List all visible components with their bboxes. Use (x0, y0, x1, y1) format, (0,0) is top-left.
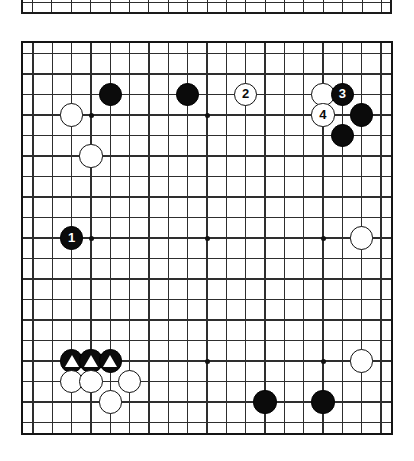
star-point (205, 113, 210, 118)
grid-line-horizontal (23, 2, 390, 3)
grid-line-vertical (264, 43, 265, 433)
star-point (89, 236, 94, 241)
star-point (321, 359, 326, 364)
grid-line-horizontal (23, 319, 391, 320)
grid-line-horizontal (23, 340, 391, 341)
star-point (205, 236, 210, 241)
grid-line-horizontal (23, 422, 391, 423)
move-number-label: 1 (68, 231, 75, 244)
white-stone[interactable] (350, 226, 373, 249)
star-point (321, 236, 326, 241)
black-stone[interactable] (311, 390, 334, 413)
white-stone[interactable] (350, 349, 373, 372)
grid-line-vertical (284, 43, 285, 433)
black-stone[interactable]: 1 (60, 226, 83, 249)
move-number-label: 4 (319, 108, 326, 121)
black-stone[interactable] (331, 124, 354, 147)
grid-line-vertical (226, 43, 227, 433)
black-stone[interactable]: 3 (331, 83, 354, 106)
black-stone[interactable] (350, 103, 373, 126)
white-stone[interactable] (79, 144, 102, 167)
white-stone[interactable] (99, 390, 122, 413)
grid-line-horizontal (23, 258, 391, 259)
white-stone[interactable]: 4 (311, 103, 334, 126)
star-point (205, 359, 210, 364)
grid-line-vertical (380, 43, 381, 433)
white-stone[interactable] (60, 103, 83, 126)
move-number-label: 3 (339, 87, 346, 100)
black-stone[interactable] (99, 349, 122, 372)
black-stone[interactable] (253, 390, 276, 413)
previous-diagram-bottom-edge (21, 0, 392, 14)
grid-line-horizontal (23, 299, 391, 300)
star-point (89, 113, 94, 118)
white-stone[interactable] (79, 370, 102, 393)
diagram-page: 2341 (0, 0, 414, 461)
grid-line-vertical (303, 43, 304, 433)
black-stone[interactable] (99, 83, 122, 106)
move-number-label: 2 (242, 87, 249, 100)
go-board[interactable]: 2341 (21, 41, 393, 435)
grid-line-horizontal (23, 278, 391, 279)
grid-line-horizontal (23, 401, 391, 402)
